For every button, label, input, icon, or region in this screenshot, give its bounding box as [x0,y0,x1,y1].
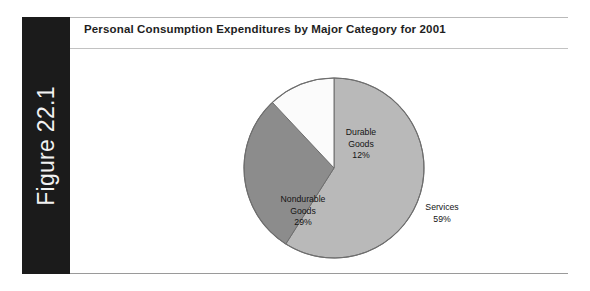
figure-title: Personal Consumption Expenditures by Maj… [84,23,446,35]
slice-label-durable-goods: Durable Goods 12% [326,127,396,162]
slice-value-durable-goods: 12% [326,150,396,162]
slice-label-services: Services 59% [404,202,480,225]
slice-value-services: 59% [404,214,480,226]
figure-body: Personal Consumption Expenditures by Maj… [70,17,568,274]
figure-number-tab: Figure 22.1 [22,17,70,274]
slice-label-line2: Goods [348,139,374,149]
pie-graphic [243,77,425,259]
divider-bottom [70,273,568,274]
slice-value-nondurable-goods: 29% [260,217,346,229]
slice-label-line1: Services [425,202,458,212]
slice-label-nondurable-goods: Nondurable Goods 29% [260,194,346,229]
pie-chart: Durable Goods 12% Services 59% Nondurabl… [70,49,568,273]
slice-label-line1: Nondurable [281,194,326,204]
pie-svg [243,77,425,259]
slice-label-line1: Durable [346,127,376,137]
slice-label-line2: Goods [290,206,316,216]
figure-number-label: Figure 22.1 [33,86,60,206]
figure-frame: Figure 22.1 Personal Consumption Expendi… [22,17,568,274]
divider-top [70,17,568,18]
